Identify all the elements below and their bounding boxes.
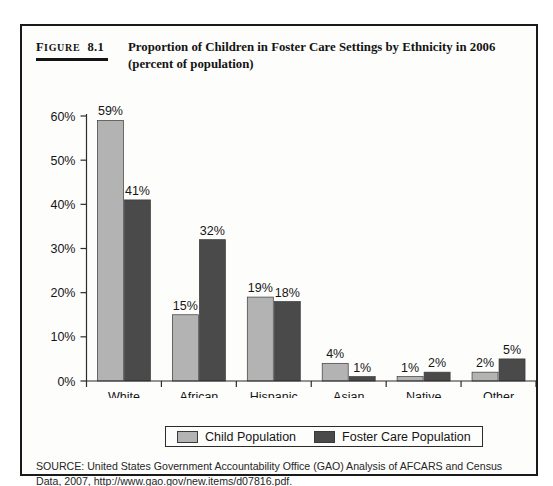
x-axis-labels: WhiteAfricanAmericanHispanicAsianNativeA… bbox=[108, 390, 514, 398]
figure-label-column: FIGURE 8.1 bbox=[36, 39, 128, 61]
source-note: SOURCE: United States Government Account… bbox=[36, 459, 522, 486]
bar-value-label: 59% bbox=[98, 104, 123, 118]
bar-chart-svg: 0%10%20%30%40%50%60% 59%41%15%32%19%18%4… bbox=[22, 88, 536, 398]
figure-label-rest: IGURE bbox=[44, 42, 80, 53]
y-tick-label: 30% bbox=[50, 242, 75, 256]
legend-item-foster-care-population: Foster Care Population bbox=[314, 430, 471, 444]
bar-value-label: 1% bbox=[401, 361, 419, 375]
y-tick-label: 40% bbox=[50, 198, 75, 212]
bar bbox=[199, 240, 225, 381]
x-tick-label: White bbox=[108, 390, 140, 398]
y-tick-label: 50% bbox=[50, 154, 75, 168]
bar bbox=[397, 377, 423, 381]
bar bbox=[172, 315, 198, 381]
bar-value-label: 2% bbox=[476, 356, 494, 370]
bar-value-label: 5% bbox=[503, 343, 521, 357]
figure-label-lead: F bbox=[36, 40, 44, 54]
bar bbox=[424, 372, 450, 381]
bar bbox=[349, 377, 375, 381]
x-tick-label: NativeAmerican bbox=[397, 390, 450, 398]
y-tick-label: 10% bbox=[50, 330, 75, 344]
legend-label-foster-care-population: Foster Care Population bbox=[342, 430, 471, 444]
bar-value-label: 1% bbox=[353, 361, 371, 375]
bar-value-label: 19% bbox=[248, 281, 273, 295]
figure-rule-divider bbox=[36, 58, 108, 61]
bar bbox=[124, 200, 150, 381]
bar-value-label: 32% bbox=[200, 224, 225, 238]
x-tick-label: Other bbox=[483, 390, 514, 398]
legend-swatch-child-population bbox=[177, 431, 198, 443]
bar bbox=[322, 363, 348, 381]
bar bbox=[97, 120, 123, 381]
legend-item-child-population: Child Population bbox=[177, 430, 296, 444]
y-axis-ticks: 0%10%20%30%40%50%60% bbox=[50, 110, 86, 389]
x-tick-label: Hispanic bbox=[250, 390, 298, 398]
bar-value-labels: 59%41%15%32%19%18%4%1%1%2%2%5% bbox=[98, 104, 521, 374]
bar-value-label: 18% bbox=[275, 286, 300, 300]
bar-value-label: 15% bbox=[173, 299, 198, 313]
bar bbox=[247, 297, 273, 381]
figure-title: Proportion of Children in Foster Care Se… bbox=[128, 39, 522, 73]
y-tick-label: 20% bbox=[50, 286, 75, 300]
figure-label-number: 8.1 bbox=[87, 40, 104, 54]
bar-value-label: 4% bbox=[326, 347, 344, 361]
figure-label: FIGURE 8.1 bbox=[36, 40, 128, 55]
bars-group bbox=[97, 120, 525, 381]
x-tick-label: AfricanAmerican bbox=[172, 390, 225, 398]
figure-container: FIGURE 8.1 Proportion of Children in Fos… bbox=[20, 24, 538, 476]
legend-label-child-population: Child Population bbox=[205, 430, 296, 444]
chart-legend: Child Population Foster Care Population bbox=[165, 426, 483, 447]
x-axis-ticks bbox=[87, 381, 537, 387]
bar bbox=[472, 372, 498, 381]
y-tick-label: 0% bbox=[57, 375, 75, 389]
bar bbox=[499, 359, 525, 381]
figure-header: FIGURE 8.1 Proportion of Children in Fos… bbox=[22, 26, 536, 73]
legend-swatch-foster-care-population bbox=[314, 431, 335, 443]
x-tick-label: Asian bbox=[333, 390, 364, 398]
bar-value-label: 2% bbox=[428, 356, 446, 370]
bar-value-label: 41% bbox=[125, 184, 150, 198]
y-tick-label: 60% bbox=[50, 110, 75, 124]
bar bbox=[274, 302, 300, 382]
chart-plot-area: 0%10%20%30%40%50%60% 59%41%15%32%19%18%4… bbox=[22, 88, 536, 398]
